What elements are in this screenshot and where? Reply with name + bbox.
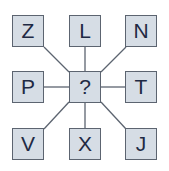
cell-letter: V	[21, 132, 35, 156]
cell-center-question: ?	[69, 71, 101, 103]
cell-bottom-center: X	[69, 128, 101, 160]
cell-bottom-left: V	[12, 128, 44, 160]
cell-letter: L	[79, 19, 91, 43]
question-mark: ?	[79, 75, 91, 99]
cell-letter: T	[135, 75, 148, 99]
cell-letter: N	[133, 19, 148, 43]
cell-letter: J	[136, 132, 147, 156]
cell-top-right: N	[125, 15, 157, 47]
cell-letter: X	[78, 132, 92, 156]
cell-middle-right: T	[125, 71, 157, 103]
cell-top-center: L	[69, 15, 101, 47]
cell-letter: P	[21, 75, 35, 99]
cell-top-left: Z	[12, 15, 44, 47]
cell-bottom-right: J	[125, 128, 157, 160]
cell-letter: Z	[22, 19, 35, 43]
cell-middle-left: P	[12, 71, 44, 103]
